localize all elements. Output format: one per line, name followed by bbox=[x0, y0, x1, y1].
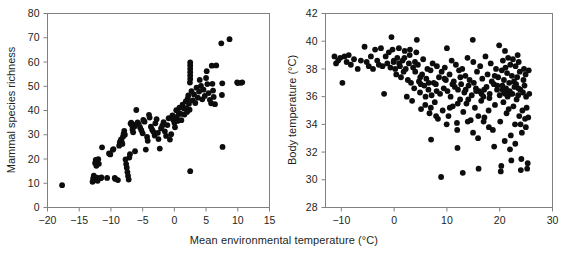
y-tick-label: 40 bbox=[28, 104, 40, 116]
data-point bbox=[433, 81, 439, 87]
data-point bbox=[465, 55, 471, 61]
data-point bbox=[486, 108, 492, 114]
y-tick-label: 30 bbox=[306, 173, 318, 185]
data-point bbox=[525, 115, 531, 121]
y-tick-label: 50 bbox=[28, 80, 40, 92]
data-point bbox=[510, 56, 516, 62]
data-point bbox=[339, 80, 345, 86]
data-point bbox=[521, 77, 527, 83]
data-point bbox=[404, 94, 410, 100]
data-point bbox=[476, 166, 482, 172]
data-point bbox=[514, 74, 520, 80]
data-point bbox=[492, 102, 498, 108]
data-point bbox=[99, 144, 105, 150]
data-point bbox=[502, 138, 508, 144]
data-points-left bbox=[59, 36, 245, 188]
x-tick-label: 30 bbox=[547, 214, 559, 226]
data-point bbox=[507, 62, 513, 68]
data-point bbox=[459, 66, 465, 72]
y-tick-label: 40 bbox=[306, 35, 318, 47]
data-point bbox=[450, 81, 456, 87]
data-point bbox=[408, 80, 414, 86]
x-tick-label: −10 bbox=[332, 214, 350, 226]
data-point bbox=[455, 101, 461, 107]
data-point bbox=[168, 131, 174, 137]
data-point bbox=[516, 59, 522, 65]
data-point bbox=[454, 127, 460, 133]
data-point bbox=[362, 44, 368, 50]
data-point bbox=[512, 121, 518, 127]
data-point bbox=[442, 65, 448, 71]
data-point bbox=[381, 91, 387, 97]
data-point bbox=[440, 108, 446, 114]
data-point bbox=[418, 81, 424, 87]
data-point bbox=[498, 169, 504, 175]
data-point bbox=[453, 62, 459, 68]
data-point bbox=[407, 47, 413, 53]
data-point bbox=[508, 157, 514, 163]
chart-panel-left: −20−15−10−505101501020304050607080 Mamma… bbox=[0, 0, 285, 261]
data-point bbox=[348, 62, 354, 68]
data-point bbox=[213, 62, 219, 68]
x-tick-label: 0 bbox=[171, 214, 177, 226]
x-tick-label: 10 bbox=[232, 214, 244, 226]
data-points-right bbox=[332, 34, 533, 180]
data-point bbox=[493, 66, 499, 72]
y-tick-label: 10 bbox=[28, 177, 40, 189]
y-tick-label: 32 bbox=[306, 146, 318, 158]
data-point bbox=[239, 79, 245, 85]
data-point bbox=[145, 138, 151, 144]
data-point bbox=[525, 160, 531, 166]
data-point bbox=[442, 76, 448, 82]
left-tick-marks bbox=[44, 14, 270, 212]
data-point bbox=[417, 90, 423, 96]
data-point bbox=[178, 117, 184, 123]
data-point bbox=[457, 74, 463, 80]
data-point bbox=[396, 45, 402, 51]
data-point bbox=[502, 48, 508, 54]
data-point bbox=[422, 102, 428, 108]
y-tick-label: 36 bbox=[306, 90, 318, 102]
data-point bbox=[402, 55, 408, 61]
data-point bbox=[487, 95, 493, 101]
data-point bbox=[164, 122, 170, 128]
data-point bbox=[346, 52, 352, 58]
y-tick-label: 0 bbox=[34, 201, 40, 213]
data-point bbox=[433, 113, 439, 119]
data-point bbox=[412, 69, 418, 75]
data-point bbox=[187, 168, 193, 174]
data-point bbox=[501, 77, 507, 83]
y-tick-label: 80 bbox=[28, 7, 40, 19]
data-point bbox=[427, 110, 433, 116]
data-point bbox=[519, 130, 525, 136]
data-point bbox=[449, 58, 455, 64]
data-point bbox=[436, 74, 442, 80]
data-point bbox=[465, 119, 471, 125]
data-point bbox=[210, 81, 216, 87]
data-point bbox=[402, 48, 408, 54]
data-point bbox=[210, 88, 216, 94]
x-tick-label: 10 bbox=[441, 214, 453, 226]
data-point bbox=[496, 42, 502, 48]
data-point bbox=[444, 121, 450, 127]
data-point bbox=[481, 119, 487, 125]
data-point bbox=[523, 124, 529, 130]
data-point bbox=[494, 83, 500, 89]
x-tick-label: 0 bbox=[391, 214, 397, 226]
data-point bbox=[398, 74, 404, 80]
data-point bbox=[479, 76, 485, 82]
data-point bbox=[426, 87, 432, 93]
y-tick-label: 30 bbox=[28, 128, 40, 140]
data-point bbox=[391, 58, 397, 64]
y-tick-label: 60 bbox=[28, 56, 40, 68]
data-point bbox=[355, 66, 361, 72]
data-point bbox=[428, 67, 434, 73]
data-point bbox=[447, 72, 453, 78]
data-point bbox=[485, 72, 491, 78]
data-point bbox=[372, 47, 378, 53]
data-point bbox=[518, 121, 524, 127]
data-point bbox=[417, 74, 423, 80]
y-axis-title-left: Mammal species richness bbox=[5, 46, 17, 173]
x-tick-label: −20 bbox=[39, 214, 57, 226]
data-point bbox=[59, 182, 65, 188]
